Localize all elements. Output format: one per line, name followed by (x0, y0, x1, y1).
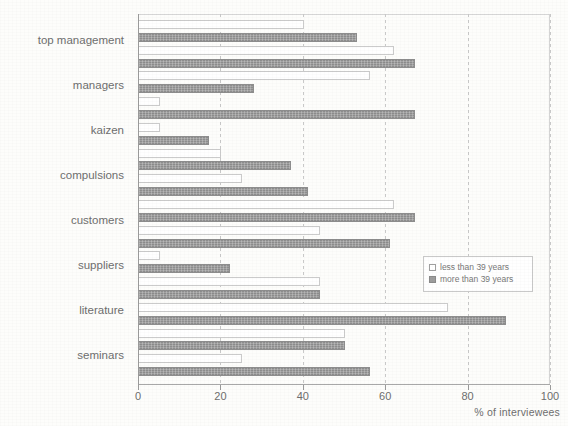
bar-chart: top managementmanagerskaizencompulsionsc… (0, 0, 568, 426)
legend-label-less-than-39: less than 39 years (440, 262, 509, 273)
legend-item-more-than-39: more than 39 years (429, 274, 527, 285)
bar-literature-more-21 (139, 290, 320, 299)
bar-top-management-more-1 (139, 33, 357, 42)
bar-managers-less-4 (139, 71, 370, 80)
plot-area (138, 14, 550, 385)
bar-compulsions-less-10 (139, 149, 221, 158)
x-tick-label-100: 100 (541, 390, 559, 402)
x-tick-label-20: 20 (214, 390, 226, 402)
bar-kaizen-less-6 (139, 97, 160, 106)
bar-managers-more-5 (139, 84, 254, 93)
legend: less than 39 years more than 39 years (423, 256, 533, 292)
y-axis-label-suppliers: suppliers (78, 259, 124, 271)
y-axis-label-top-management: top management (38, 34, 124, 46)
legend-item-less-than-39: less than 39 years (429, 262, 527, 273)
bar-customers-less-16 (139, 226, 320, 235)
bar-customers-less-14 (139, 200, 394, 209)
x-tick-mark-0 (138, 385, 139, 390)
x-tick-mark-40 (303, 385, 304, 390)
bar-kaizen-more-7 (139, 110, 415, 119)
bar-literature-less-20 (139, 277, 320, 286)
plot-border-top (138, 14, 550, 15)
x-tick-label-80: 80 (461, 390, 473, 402)
bar-suppliers-more-19 (139, 264, 230, 273)
bar-seminars-less-26 (139, 354, 242, 363)
y-axis-label-managers: managers (73, 79, 124, 91)
bar-compulsions-more-11 (139, 161, 291, 170)
x-tick-mark-80 (468, 385, 469, 390)
y-axis-label-kaizen: kaizen (91, 124, 124, 136)
bar-customers-more-15 (139, 213, 415, 222)
y-axis-label-seminars: seminars (77, 349, 124, 361)
bar-literature-less-22 (139, 303, 448, 312)
x-tick-label-60: 60 (379, 390, 391, 402)
bar-kaizen-less-8 (139, 123, 160, 132)
bar-managers-more-3 (139, 59, 415, 68)
gridline-80 (468, 14, 469, 385)
y-axis-label-customers: customers (71, 214, 124, 226)
legend-label-more-than-39: more than 39 years (440, 274, 513, 285)
bar-suppliers-less-18 (139, 251, 160, 260)
x-tick-mark-20 (220, 385, 221, 390)
gridline-100 (550, 14, 551, 385)
bar-compulsions-less-12 (139, 174, 242, 183)
y-axis-label-literature: literature (79, 304, 124, 316)
x-axis-title: % of interviewees (474, 406, 560, 418)
bar-seminars-less-24 (139, 329, 345, 338)
x-tick-mark-60 (385, 385, 386, 390)
legend-swatch-light-icon (429, 264, 436, 271)
x-tick-label-0: 0 (135, 390, 141, 402)
bar-top-management-less-0 (139, 20, 304, 29)
bar-literature-more-23 (139, 316, 506, 325)
plot-border-bottom (138, 384, 550, 385)
y-axis-label-compulsions: compulsions (60, 169, 124, 181)
y-axis-labels: top managementmanagerskaizencompulsionsc… (0, 0, 132, 426)
x-tick-mark-100 (550, 385, 551, 390)
x-tick-label-40: 40 (297, 390, 309, 402)
bar-customers-more-17 (139, 239, 390, 248)
bar-compulsions-more-13 (139, 187, 308, 196)
legend-swatch-dark-icon (429, 276, 436, 283)
bar-kaizen-more-9 (139, 136, 209, 145)
bar-seminars-more-27 (139, 367, 370, 376)
bar-managers-less-2 (139, 46, 394, 55)
bar-seminars-more-25 (139, 341, 345, 350)
